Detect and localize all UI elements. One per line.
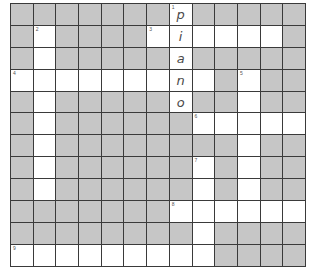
crossword-block [215, 4, 238, 26]
crossword-cell[interactable] [215, 113, 238, 135]
crossword-block [11, 92, 34, 114]
crossword-cell[interactable] [34, 92, 57, 114]
crossword-cell[interactable] [283, 201, 306, 223]
crossword-cell[interactable] [261, 113, 284, 135]
crossword-cell[interactable] [193, 26, 216, 48]
crossword-block [102, 135, 125, 157]
crossword-cell[interactable]: 8 [170, 201, 193, 223]
crossword-block [147, 48, 170, 70]
clue-number: 5 [240, 70, 243, 76]
crossword-block [124, 179, 147, 201]
crossword-block [34, 4, 57, 26]
crossword-block [283, 245, 306, 267]
crossword-block [215, 48, 238, 70]
crossword-block [170, 113, 193, 135]
crossword-cell[interactable]: 4 [11, 70, 34, 92]
crossword-block [238, 4, 261, 26]
crossword-cell[interactable] [79, 245, 102, 267]
crossword-block [11, 223, 34, 245]
crossword-cell[interactable]: 7 [193, 157, 216, 179]
crossword-block [79, 201, 102, 223]
crossword-block [238, 223, 261, 245]
crossword-block [261, 245, 284, 267]
crossword-block [102, 157, 125, 179]
crossword-cell[interactable] [283, 113, 306, 135]
crossword-cell[interactable] [193, 245, 216, 267]
crossword-cell[interactable] [34, 135, 57, 157]
crossword-cell[interactable] [34, 245, 57, 267]
crossword-block [283, 223, 306, 245]
crossword-cell[interactable] [261, 201, 284, 223]
crossword-cell[interactable] [34, 179, 57, 201]
crossword-cell[interactable] [215, 201, 238, 223]
crossword-block [215, 70, 238, 92]
crossword-cell[interactable] [261, 26, 284, 48]
crossword-block [124, 223, 147, 245]
crossword-cell[interactable]: a [170, 48, 193, 70]
crossword-block [238, 245, 261, 267]
crossword-block [102, 223, 125, 245]
crossword-block [283, 92, 306, 114]
crossword-cell[interactable] [79, 70, 102, 92]
crossword-cell[interactable] [238, 201, 261, 223]
crossword-cell[interactable] [193, 223, 216, 245]
crossword-cell[interactable] [56, 70, 79, 92]
crossword-cell[interactable] [147, 70, 170, 92]
crossword-cell[interactable] [238, 113, 261, 135]
crossword-cell[interactable] [102, 245, 125, 267]
crossword-block [170, 223, 193, 245]
crossword-cell[interactable]: 3 [147, 26, 170, 48]
crossword-cell[interactable] [238, 92, 261, 114]
crossword-block [34, 201, 57, 223]
crossword-cell[interactable] [193, 70, 216, 92]
crossword-cell[interactable] [238, 179, 261, 201]
crossword-cell[interactable] [34, 70, 57, 92]
crossword-cell[interactable] [124, 245, 147, 267]
crossword-block [283, 48, 306, 70]
crossword-block [261, 157, 284, 179]
crossword-block [261, 179, 284, 201]
crossword-cell[interactable]: o [170, 92, 193, 114]
crossword-cell[interactable]: 1p [170, 4, 193, 26]
crossword-block [193, 48, 216, 70]
crossword-block [283, 157, 306, 179]
crossword-cell[interactable] [34, 48, 57, 70]
cell-letter: p [170, 4, 192, 25]
crossword-cell[interactable]: i [170, 26, 193, 48]
crossword-cell[interactable]: 9 [11, 245, 34, 267]
crossword-cell[interactable] [193, 179, 216, 201]
crossword-block [79, 92, 102, 114]
crossword-cell[interactable] [215, 26, 238, 48]
crossword-cell[interactable] [102, 70, 125, 92]
crossword-cell[interactable] [170, 245, 193, 267]
crossword-cell[interactable]: n [170, 70, 193, 92]
crossword-cell[interactable]: 5 [238, 70, 261, 92]
crossword-block [124, 26, 147, 48]
crossword-block [261, 4, 284, 26]
crossword-block [147, 179, 170, 201]
crossword-cell[interactable] [238, 26, 261, 48]
clue-number: 6 [195, 113, 198, 119]
crossword-cell[interactable] [34, 157, 57, 179]
crossword-cell[interactable] [124, 70, 147, 92]
crossword-block [261, 70, 284, 92]
crossword-cell[interactable] [56, 245, 79, 267]
crossword-block [79, 4, 102, 26]
crossword-block [102, 201, 125, 223]
crossword-cell[interactable] [34, 113, 57, 135]
crossword-cell[interactable] [238, 157, 261, 179]
crossword-cell[interactable] [147, 245, 170, 267]
cell-letter: o [170, 92, 192, 113]
crossword-cell[interactable]: 6 [193, 113, 216, 135]
crossword-cell[interactable] [238, 135, 261, 157]
crossword-block [11, 113, 34, 135]
crossword-block [283, 179, 306, 201]
crossword-block [261, 135, 284, 157]
crossword-block [215, 135, 238, 157]
crossword-block [283, 26, 306, 48]
crossword-block [11, 48, 34, 70]
crossword-block [56, 201, 79, 223]
crossword-block [124, 135, 147, 157]
crossword-cell[interactable]: 2 [34, 26, 57, 48]
crossword-cell[interactable] [193, 201, 216, 223]
